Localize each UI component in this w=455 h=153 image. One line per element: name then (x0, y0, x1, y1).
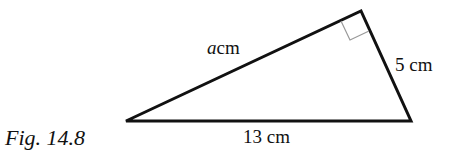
hypotenuse-label: 13 cm (243, 127, 290, 146)
triangle (126, 11, 411, 121)
long-leg-variable: a (207, 37, 217, 58)
short-leg-label: 5 cm (395, 55, 432, 74)
right-angle-marker (341, 21, 369, 40)
long-leg-label: acm (207, 38, 240, 57)
figure-caption: Fig. 14.8 (5, 127, 85, 149)
long-leg-unit: cm (217, 37, 240, 58)
